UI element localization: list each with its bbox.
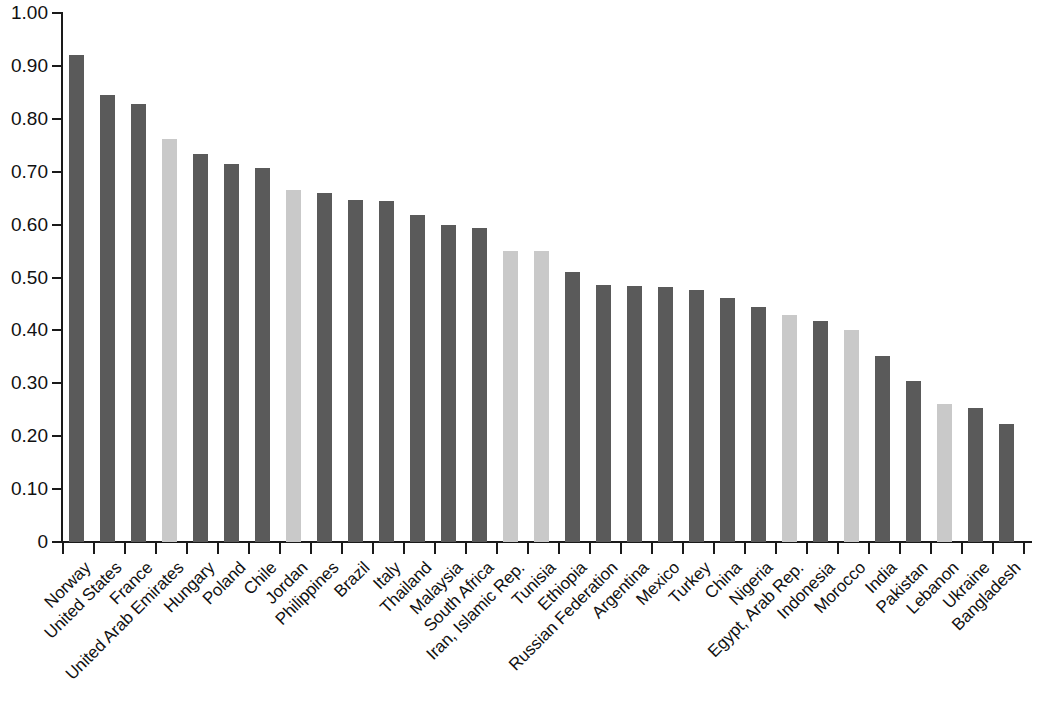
bar	[193, 154, 208, 542]
x-axis-tick	[961, 543, 963, 554]
x-axis-tick	[403, 543, 405, 554]
y-axis-tick	[52, 329, 62, 331]
bar	[317, 193, 332, 542]
bar	[906, 381, 921, 542]
plot-area	[62, 13, 1030, 542]
y-axis-tick	[52, 488, 62, 490]
x-axis-tick	[620, 543, 622, 554]
bar	[69, 55, 84, 542]
bar	[441, 225, 456, 542]
bar	[875, 356, 890, 542]
bar	[534, 251, 549, 542]
x-axis-tick	[341, 543, 343, 554]
x-axis-tick	[558, 543, 560, 554]
bar	[162, 139, 177, 542]
x-axis-tick	[868, 543, 870, 554]
y-axis-tick	[52, 118, 62, 120]
bar	[286, 190, 301, 542]
x-axis-tick	[651, 543, 653, 554]
y-axis-tick-label: 0.40	[0, 320, 48, 339]
x-axis-tick	[186, 543, 188, 554]
bar	[255, 168, 270, 542]
bar	[410, 215, 425, 542]
x-axis-tick	[465, 543, 467, 554]
x-axis-tick	[682, 543, 684, 554]
bar	[596, 285, 611, 542]
bar	[720, 298, 735, 542]
x-axis-tick	[713, 543, 715, 554]
bar	[348, 200, 363, 542]
x-axis-tick	[589, 543, 591, 554]
x-axis-tick	[837, 543, 839, 554]
bar	[782, 315, 797, 542]
bar	[937, 404, 952, 542]
x-axis-tick	[744, 543, 746, 554]
x-axis-tick	[496, 543, 498, 554]
bar	[379, 201, 394, 542]
bar	[968, 408, 983, 542]
x-axis-tick	[217, 543, 219, 554]
bar	[100, 95, 115, 542]
y-axis-tick-label: 0.90	[0, 56, 48, 75]
x-axis-tick	[930, 543, 932, 554]
bar	[751, 307, 766, 542]
bar	[813, 321, 828, 542]
x-axis-tick	[775, 543, 777, 554]
x-axis-tick	[279, 543, 281, 554]
y-axis-tick	[52, 435, 62, 437]
y-axis-tick	[52, 171, 62, 173]
x-axis-tick	[310, 543, 312, 554]
y-axis-tick	[52, 382, 62, 384]
y-axis-tick-label: 0.70	[0, 162, 48, 181]
y-axis-tick	[52, 65, 62, 67]
y-axis-tick-label: 1.00	[0, 3, 48, 22]
x-axis-tick	[248, 543, 250, 554]
bar	[689, 290, 704, 542]
x-axis-tick	[155, 543, 157, 554]
bar	[844, 330, 859, 542]
bar	[658, 287, 673, 542]
y-axis-tick-label: 0.30	[0, 373, 48, 392]
bar-chart: 00.100.200.300.400.500.600.700.800.901.0…	[0, 0, 1040, 704]
y-axis-tick-label: 0.60	[0, 215, 48, 234]
bar	[131, 104, 146, 542]
y-axis-tick	[52, 224, 62, 226]
x-axis-tick	[527, 543, 529, 554]
x-axis-tick	[372, 543, 374, 554]
x-axis-tick	[62, 543, 64, 554]
bar	[999, 424, 1014, 542]
y-axis-tick	[52, 541, 62, 543]
y-axis-tick	[52, 277, 62, 279]
x-axis-tick	[93, 543, 95, 554]
x-axis-tick	[899, 543, 901, 554]
y-axis-tick-label: 0.10	[0, 479, 48, 498]
x-axis-tick	[124, 543, 126, 554]
y-axis-tick	[52, 12, 62, 14]
bar	[224, 164, 239, 542]
y-axis-tick-label: 0.50	[0, 268, 48, 287]
y-axis-tick-label: 0	[0, 532, 48, 551]
y-axis-tick-label: 0.80	[0, 109, 48, 128]
x-axis-tick	[1023, 543, 1025, 554]
x-axis-tick	[806, 543, 808, 554]
bar	[565, 272, 580, 542]
bar	[627, 286, 642, 542]
x-axis-tick	[434, 543, 436, 554]
bar	[472, 228, 487, 542]
bar	[503, 251, 518, 542]
y-axis-tick-label: 0.20	[0, 426, 48, 445]
x-axis-tick	[992, 543, 994, 554]
